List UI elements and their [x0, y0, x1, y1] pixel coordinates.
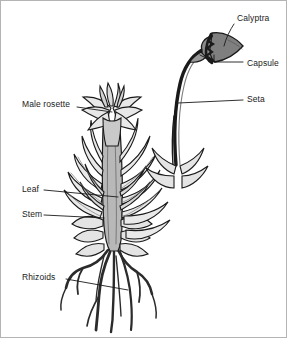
label-capsule: Capsule: [247, 59, 279, 68]
label-stem: Stem: [22, 210, 42, 219]
moss-diagram: Calyptra Capsule Seta Male rosette Leaf …: [0, 0, 287, 338]
label-calyptra: Calyptra: [237, 14, 269, 23]
label-rhizoids: Rhizoids: [22, 273, 55, 282]
label-leaf: Leaf: [22, 185, 39, 194]
label-male-rosette: Male rosette: [22, 100, 70, 109]
diagram-canvas: [0, 0, 287, 338]
label-seta: Seta: [247, 95, 265, 104]
